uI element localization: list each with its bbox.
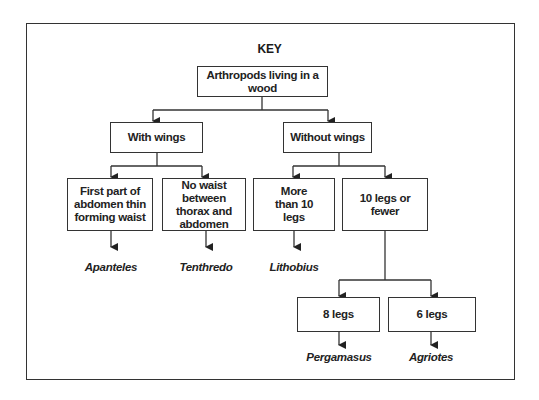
- node-without-wings: Without wings: [283, 122, 372, 153]
- node-more-than-10-legs: More than 10 legs: [253, 178, 335, 231]
- leaf-agriotes: Agriotes: [381, 351, 481, 363]
- node-6-legs: 6 legs: [388, 297, 476, 332]
- node-8-legs: 8 legs: [297, 297, 380, 332]
- node-10-legs-or-fewer: 10 legs or fewer: [342, 178, 428, 231]
- leaf-pergamasus: Pergamasus: [289, 351, 389, 363]
- node-waist: First part of abdomen thin forming waist: [67, 178, 153, 231]
- node-with-wings: With wings: [110, 122, 203, 153]
- leaf-apanteles: Apanteles: [66, 261, 156, 273]
- leaf-tenthredo: Tenthredo: [161, 261, 251, 273]
- node-no-waist: No waist between thorax and abdomen: [162, 178, 246, 231]
- root-node: Arthropods living in a wood: [197, 66, 328, 97]
- leaf-lithobius: Lithobius: [249, 261, 339, 273]
